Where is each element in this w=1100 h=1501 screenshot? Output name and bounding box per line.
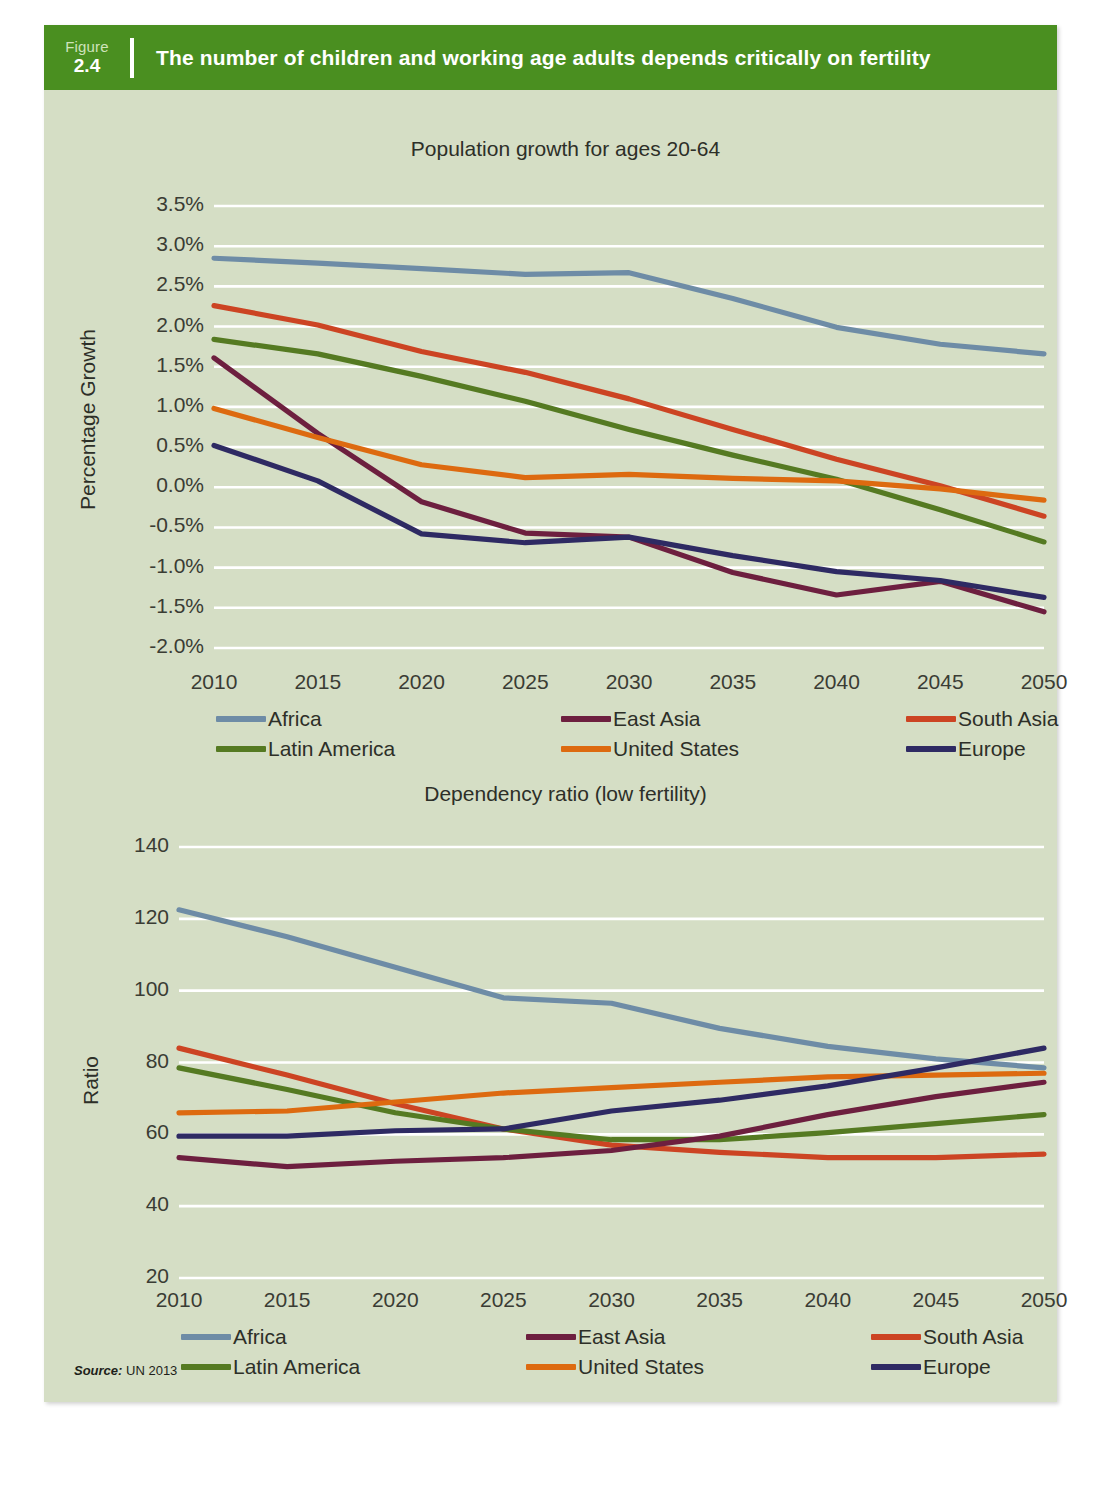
x-axis-tick-label: 2045 [917,670,964,694]
legend-swatch-icon [526,1364,576,1370]
figure-container: Figure 2.4 The number of children and wo… [44,25,1057,1402]
legend-item-europe[interactable]: Europe [906,737,1100,761]
x-axis-tick-label: 2010 [156,1288,203,1312]
x-axis-tick-label: 2030 [588,1288,635,1312]
legend-label: United States [578,1355,704,1379]
legend-item-europe[interactable]: Europe [871,1355,1100,1379]
figure-badge-word: Figure [65,39,109,55]
figure-badge: Figure 2.4 [44,25,130,90]
legend-label: Africa [268,707,322,731]
source-value: UN 2013 [126,1363,177,1378]
legend-swatch-icon [181,1334,231,1340]
figure-header: Figure 2.4 The number of children and wo… [44,25,1057,90]
x-axis-tick-label: 2035 [709,670,756,694]
x-axis-ticks-bottom: 201020152020202520302035204020452050 [44,1288,1057,1316]
legend-item-east-asia[interactable]: East Asia [561,707,906,731]
legend-swatch-icon [181,1364,231,1370]
legend-swatch-icon [871,1364,921,1370]
plot-area-bottom [44,760,1057,1360]
x-axis-tick-label: 2020 [398,670,445,694]
header-divider [130,38,134,78]
x-axis-tick-label: 2010 [191,670,238,694]
legend-item-east-asia[interactable]: East Asia [526,1325,871,1349]
chart-panel-population-growth: Population growth for ages 20-64 Percent… [44,90,1057,750]
x-axis-tick-label: 2035 [696,1288,743,1312]
x-axis-tick-label: 2040 [804,1288,851,1312]
series-line-europe [214,445,1044,597]
legend-label: Latin America [268,737,395,761]
legend-item-united-states[interactable]: United States [561,737,906,761]
source-label: Source: [74,1363,122,1378]
figure-badge-number: 2.4 [74,56,100,76]
legend-swatch-icon [526,1334,576,1340]
x-axis-tick-label: 2025 [502,670,549,694]
legend-label: Africa [233,1325,287,1349]
legend-label: South Asia [923,1325,1023,1349]
x-axis-tick-label: 2045 [913,1288,960,1312]
legend-swatch-icon [561,716,611,722]
x-axis-ticks-top: 201020152020202520302035204020452050 [44,670,1057,698]
source-note: Source: UN 2013 [74,1363,177,1378]
legend-item-south-asia[interactable]: South Asia [871,1325,1100,1349]
legend-label: East Asia [613,707,701,731]
legend-top: AfricaEast AsiaSouth AsiaLatin AmericaUn… [216,704,1100,764]
legend-label: South Asia [958,707,1058,731]
legend-label: East Asia [578,1325,666,1349]
legend-bottom: AfricaEast AsiaSouth AsiaLatin AmericaUn… [181,1322,1100,1382]
legend-swatch-icon [906,716,956,722]
legend-item-south-asia[interactable]: South Asia [906,707,1100,731]
x-axis-tick-label: 2020 [372,1288,419,1312]
legend-swatch-icon [216,746,266,752]
legend-item-latin-america[interactable]: Latin America [216,737,561,761]
legend-swatch-icon [871,1334,921,1340]
legend-swatch-icon [906,746,956,752]
legend-label: Europe [958,737,1026,761]
series-line-africa [179,910,1044,1068]
legend-label: Europe [923,1355,991,1379]
x-axis-tick-label: 2025 [480,1288,527,1312]
x-axis-tick-label: 2050 [1021,1288,1068,1312]
legend-item-united-states[interactable]: United States [526,1355,871,1379]
x-axis-tick-label: 2050 [1021,670,1068,694]
legend-item-africa[interactable]: Africa [181,1325,526,1349]
legend-item-africa[interactable]: Africa [216,707,561,731]
figure-title: The number of children and working age a… [156,46,931,70]
legend-item-latin-america[interactable]: Latin America [181,1355,526,1379]
series-line-south-asia [214,306,1044,517]
x-axis-tick-label: 2015 [264,1288,311,1312]
legend-swatch-icon [216,716,266,722]
chart-panel-dependency-ratio: Dependency ratio (low fertility) Ratio 1… [44,760,1057,1360]
x-axis-tick-label: 2015 [294,670,341,694]
legend-label: Latin America [233,1355,360,1379]
legend-swatch-icon [561,746,611,752]
legend-label: United States [613,737,739,761]
plot-area-top [44,90,1057,750]
x-axis-tick-label: 2030 [606,670,653,694]
series-line-africa [214,258,1044,354]
x-axis-tick-label: 2040 [813,670,860,694]
